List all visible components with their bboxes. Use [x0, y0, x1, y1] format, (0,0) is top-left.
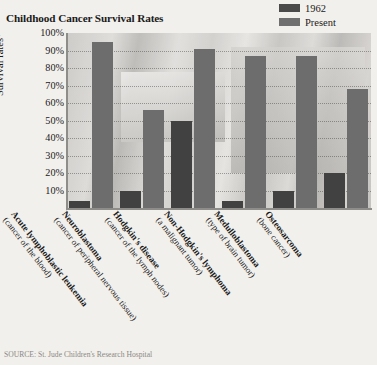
x-category-label: Osteosarcoma(bone cancer)	[255, 209, 306, 266]
legend-item-present: Present	[279, 16, 371, 28]
bar-1962	[222, 201, 243, 208]
y-tick-label: 90%	[8, 46, 64, 56]
chart-container: Childhood Cancer Survival Rates 1962 Pre…	[0, 0, 377, 365]
legend-item-1962: 1962	[279, 2, 371, 14]
chart-legend: 1962 Present	[279, 2, 371, 30]
bar-1962	[324, 173, 345, 208]
bar-1962	[273, 191, 294, 209]
bar-present	[143, 110, 164, 208]
y-tick-label: 80%	[8, 63, 64, 73]
y-tick-label: 70%	[8, 81, 64, 91]
y-tick-label: 10%	[8, 186, 64, 196]
source-note: SOURCE: St. Jude Children's Research Hos…	[4, 350, 152, 359]
bar-present	[92, 42, 113, 208]
bar-1962	[171, 121, 192, 209]
y-tick-label: 40%	[8, 133, 64, 143]
bar-present	[296, 56, 317, 208]
y-tick-label: 60%	[8, 98, 64, 108]
bar-present	[194, 49, 215, 208]
bar-1962	[69, 201, 90, 208]
y-tick-label: 20%	[8, 168, 64, 178]
plot-area	[66, 33, 371, 208]
bars-layer	[66, 33, 371, 208]
bar-present	[245, 56, 266, 208]
y-tick-label: 50%	[8, 116, 64, 126]
legend-label-present: Present	[305, 17, 336, 28]
y-axis-line	[66, 33, 68, 209]
legend-swatch-1962-icon	[279, 4, 300, 12]
y-tick-label: 30%	[8, 151, 64, 161]
bar-present	[347, 89, 368, 208]
x-axis-category-labels: Acute lymphoblastic leukemia(cancer of t…	[0, 209, 377, 344]
legend-label-1962: 1962	[305, 3, 326, 14]
legend-swatch-present-icon	[279, 18, 300, 26]
y-tick-label: 100%	[8, 28, 64, 38]
bar-1962	[120, 191, 141, 209]
